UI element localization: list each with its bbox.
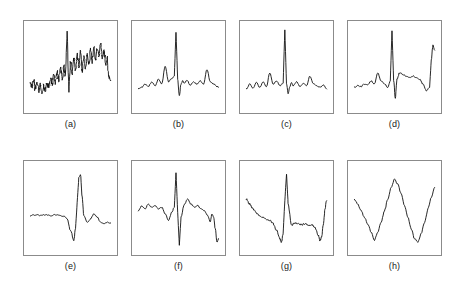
panel-g — [239, 160, 334, 256]
panel-d — [347, 20, 442, 114]
panel-d-trace — [347, 20, 442, 114]
panel-a-caption: (a) — [23, 119, 118, 129]
panel-c-caption: (c) — [239, 119, 334, 129]
panel-h — [347, 160, 442, 256]
panel-b — [131, 20, 226, 114]
panel-e — [23, 160, 118, 256]
panel-g-trace — [239, 160, 334, 256]
panel-h-caption: (h) — [347, 261, 442, 271]
panel-b-trace — [131, 20, 226, 114]
panel-c — [239, 20, 334, 114]
panel-b-caption: (b) — [131, 119, 226, 129]
panel-c-trace — [239, 20, 334, 114]
panel-a-trace — [23, 20, 118, 114]
panel-f-caption: (f) — [131, 261, 226, 271]
figure-panel-grid: (a) (b) (c) (d) (e) (f) — [0, 0, 462, 288]
panel-f-trace — [131, 160, 226, 256]
panel-h-trace — [347, 160, 442, 256]
panel-a — [23, 20, 118, 114]
panel-e-trace — [23, 160, 118, 256]
panel-d-caption: (d) — [347, 119, 442, 129]
panel-e-caption: (e) — [23, 261, 118, 271]
panel-g-caption: (g) — [239, 261, 334, 271]
panel-f — [131, 160, 226, 256]
